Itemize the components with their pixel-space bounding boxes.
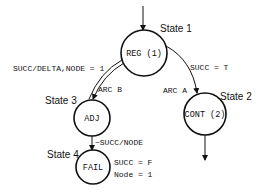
arc-b-condition: SUCC/DELTA,NODE = 1 <box>13 64 104 73</box>
arc-a-condition: SUCC = T <box>190 63 229 72</box>
state-4-label: FAIL <box>83 163 103 173</box>
state-4-node[interactable]: FAIL <box>76 150 110 184</box>
state-4-name: State 4 <box>47 149 79 160</box>
fail-succ-annotation: SUCC = F <box>114 158 153 167</box>
state-2-label: CONT (2) <box>185 110 226 120</box>
fail-node-annotation: Node = 1 <box>114 170 153 179</box>
state-1-node[interactable]: REG (1) <box>121 30 167 76</box>
state-3-node[interactable]: ADJ <box>74 100 110 136</box>
state-diagram: REG (1) State 1 SUCC = T ARC A CONT (2) … <box>0 0 262 192</box>
arc-a-label: ARC A <box>163 86 187 95</box>
arc-b-label: ARC B <box>98 85 122 94</box>
fail-condition: ~SUCC/NODE <box>95 138 143 147</box>
state-3-label: ADJ <box>84 114 99 124</box>
state-1-name: State 1 <box>160 23 192 34</box>
state-1-label: REG (1) <box>126 49 162 59</box>
state-2-name: State 2 <box>220 91 252 102</box>
state-3-name: State 3 <box>45 95 77 106</box>
